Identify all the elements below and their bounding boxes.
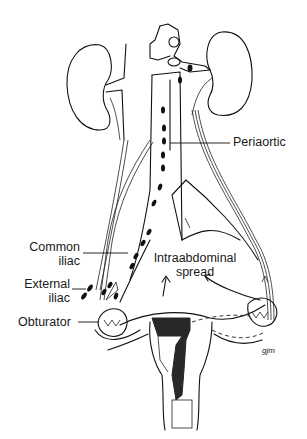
label-external-iliac-line2: iliac: [14, 291, 70, 305]
left-kidney: [67, 44, 126, 140]
label-common-iliac-line2: iliac: [24, 254, 80, 268]
label-intraabdominal-line1: Intraabdominal: [140, 251, 250, 265]
label-external-iliac-line1: External: [14, 277, 70, 291]
uterus: [95, 298, 277, 430]
anatomical-illustration: [0, 0, 307, 439]
right-kidney: [180, 32, 252, 116]
aorta: [130, 72, 258, 280]
vertebra: [150, 24, 210, 70]
label-intraabdominal-line2: spread: [140, 265, 250, 279]
artist-signature: gjm: [262, 344, 275, 358]
label-common-iliac-line1: Common: [24, 240, 80, 254]
label-obturator: Obturator: [18, 315, 71, 329]
label-periaortic: Periaortic: [233, 135, 286, 149]
